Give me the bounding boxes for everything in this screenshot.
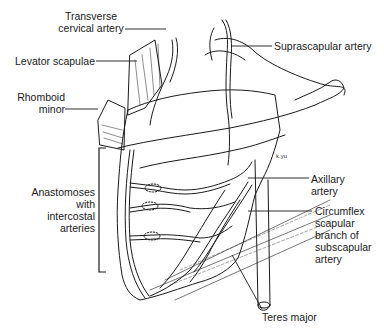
label-line: artery — [311, 185, 345, 197]
label-text: Suprascapular artery — [274, 40, 371, 52]
dorsal-scapular-artery — [125, 150, 145, 298]
label-teres-major: Teres major — [262, 311, 317, 323]
label-suprascapular-artery: Suprascapular artery — [274, 40, 371, 52]
label-line: arteries — [10, 222, 95, 234]
label-line: with — [10, 198, 95, 210]
teres-major-muscle — [150, 200, 330, 300]
label-line: cervical artery — [54, 22, 128, 34]
label-line: intercostal — [10, 210, 95, 222]
label-line: Axillary — [311, 173, 345, 185]
intercostal-branch-3 — [130, 226, 232, 238]
label-transverse-cervical-artery: Transverse cervical artery — [54, 10, 128, 34]
suprascapular-artery — [222, 20, 230, 165]
label-text: Teres major — [262, 311, 317, 323]
label-anastomoses-intercostal: Anastomoses with intercostal arteries — [10, 186, 95, 234]
label-line: scapular — [315, 217, 372, 229]
signature-text: k.yu — [276, 153, 287, 159]
label-line: minor — [10, 103, 65, 115]
label-line: Anastomoses — [10, 186, 95, 198]
label-line: Rhomboid — [10, 91, 65, 103]
label-line: branch of — [315, 229, 372, 241]
anastomoses-bracket — [99, 148, 106, 272]
label-line: artery — [315, 253, 372, 265]
label-axillary-artery: Axillary artery — [311, 173, 345, 197]
label-text: Levator scapulae — [15, 55, 95, 67]
label-line: subscapular — [315, 241, 372, 253]
label-line: Circumflex — [315, 205, 372, 217]
label-rhomboid-minor: Rhomboid minor — [10, 91, 65, 115]
label-line: Transverse — [54, 10, 128, 22]
label-circumflex-scapular-branch: Circumflex scapular branch of subscapula… — [315, 205, 372, 265]
artist-signature: k.yu — [276, 153, 287, 159]
label-levator-scapulae: Levator scapulae — [15, 55, 95, 67]
